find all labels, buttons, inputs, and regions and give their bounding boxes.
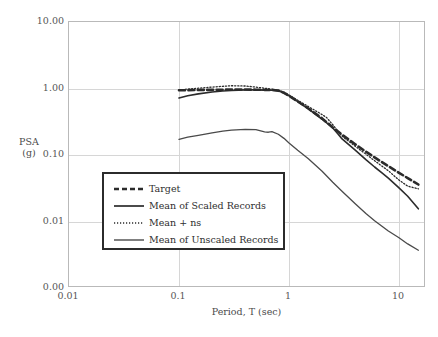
legend-label: Mean of Scaled Records [149, 200, 266, 211]
legend-swatch-solid-icon [114, 201, 144, 211]
x-axis-title: Period, T (sec) [68, 306, 425, 317]
legend-item-mean-of-unscaled-records: Mean of Unscaled Records [104, 231, 283, 248]
y-tick-label: 1.00 [18, 83, 64, 93]
legend-item-mean-plus-ns: Mean + ns [104, 214, 283, 231]
series-line [179, 90, 418, 185]
x-tick-label: 1 [258, 290, 318, 301]
x-axis-tick-labels: 0.01 0.1 1 10 [68, 290, 425, 304]
legend-swatch-dashed-icon [114, 184, 144, 194]
legend-label: Mean + ns [149, 217, 201, 228]
chart-legend: Target Mean of Scaled Records Mean + ns … [102, 172, 285, 250]
x-tick-label: 0.1 [148, 290, 208, 301]
x-tick-label: 0.01 [38, 290, 98, 301]
chart-figure: 10.00 1.00 0.10 0.01 0.00 PSA (g) 0.01 0… [0, 0, 438, 337]
y-axis-title: PSA (g) [12, 136, 46, 158]
legend-label: Target [149, 183, 180, 194]
x-tick-label: 10 [368, 290, 428, 301]
legend-label: Mean of Unscaled Records [149, 234, 278, 245]
legend-item-mean-of-scaled-records: Mean of Scaled Records [104, 197, 283, 214]
y-axis-title-line1: PSA [12, 136, 46, 147]
y-tick-label: 10.00 [18, 16, 64, 26]
legend-swatch-solid-icon [114, 235, 144, 245]
y-axis-title-line2: (g) [12, 147, 46, 158]
legend-item-target: Target [104, 180, 283, 197]
y-tick-label: 0.01 [18, 216, 64, 226]
legend-swatch-dotted-icon [114, 218, 144, 228]
